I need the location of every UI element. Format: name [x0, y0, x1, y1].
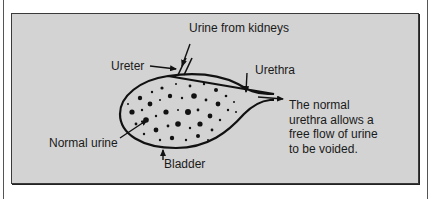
- caption-line: urethra allows a: [289, 113, 378, 128]
- label-ureter: Ureter: [111, 59, 144, 73]
- caption: The normal urethra allows a free flow of…: [289, 98, 378, 156]
- caption-line: The normal: [289, 98, 378, 113]
- label-urine-from-kidneys: Urine from kidneys: [189, 21, 289, 35]
- caption-line: free flow of urine: [289, 127, 378, 142]
- label-normal-urine: Normal urine: [49, 136, 118, 150]
- caption-line: to be voided.: [289, 142, 378, 157]
- label-urethra: Urethra: [255, 63, 295, 77]
- urine-particles: [127, 83, 237, 141]
- label-bladder: Bladder: [164, 157, 205, 171]
